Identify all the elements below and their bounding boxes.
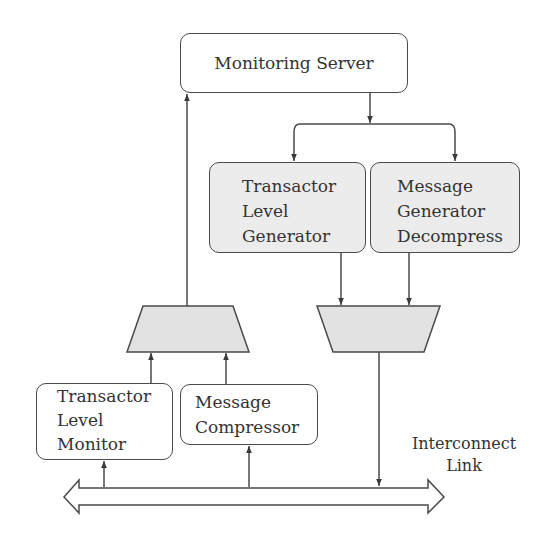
edge-branch-to-decompress [449,124,455,161]
transactor-level-generator-box: Transactor Level Generator [209,162,366,253]
mux-shape [127,306,249,352]
interconnect-link-label: Interconnect Link [400,433,528,477]
generator-label-line-3: Generator [242,224,365,249]
compressor-label-line-2: Compressor [195,415,317,440]
transactor-level-monitor-box: Transactor Level Monitor [36,383,173,460]
message-compressor-box: Message Compressor [180,384,318,445]
monitoring-server-label: Monitoring Server [214,51,374,76]
decompress-label-line-1: Message [397,174,519,199]
interconnect-bus-arrow [64,480,444,513]
monitor-label-line-1: Transactor [57,384,172,408]
decompress-label-line-2: Generator [397,199,519,224]
monitoring-server-box: Monitoring Server [180,33,408,93]
interconnect-label-line-1: Interconnect [400,433,528,455]
diagram-canvas: Monitoring Server Transactor Level Gener… [0,0,552,542]
message-generator-decompress-box: Message Generator Decompress [370,162,520,253]
monitor-label-line-2: Level [57,408,172,432]
monitor-label-line-3: Monitor [57,432,172,456]
generator-label-line-2: Level [242,199,365,224]
generator-label-line-1: Transactor [242,174,365,199]
interconnect-label-line-2: Link [400,455,528,477]
decompress-label-line-3: Decompress [397,224,519,249]
demux-shape [317,306,440,352]
edge-branch-to-generator [294,124,300,161]
compressor-label-line-1: Message [195,390,317,415]
